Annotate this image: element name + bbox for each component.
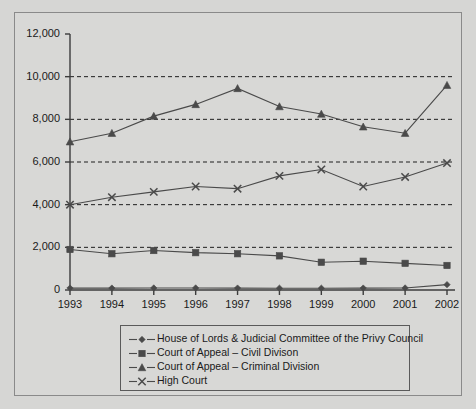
legend-item-label: Court of Appeal – Civil Divison: [157, 346, 298, 359]
x-axis-tick-label: 2000: [343, 298, 383, 310]
y-axis-tick-label: 2,000: [15, 240, 60, 252]
x-axis-tick-label: 1996: [176, 298, 216, 310]
y-axis-tick-label: 4,000: [15, 198, 60, 210]
x-axis-tick-label: 1999: [301, 298, 341, 310]
legend-marker-diamond-icon: [127, 332, 157, 345]
legend-item: Court of Appeal – Civil Divison: [127, 345, 409, 359]
legend-item-label: High Court: [157, 374, 207, 387]
x-axis-tick-label: 2001: [385, 298, 425, 310]
series-layer: [66, 81, 451, 291]
legend-item: House of Lords & Judicial Committee of t…: [127, 331, 409, 345]
legend-marker-square-icon: [127, 346, 157, 359]
legend-item: Court of Appeal – Criminal Division: [127, 359, 409, 373]
x-axis-tick-label: 1995: [134, 298, 174, 310]
legend-marker-triangle-icon: [127, 360, 157, 373]
chart-frame: 02,0004,0006,0008,00010,00012,000 199319…: [14, 12, 462, 396]
chart-series: [66, 159, 450, 208]
y-axis-tick-label: 10,000: [15, 70, 60, 82]
y-axis-tick-label: 12,000: [15, 27, 60, 39]
chart-legend: House of Lords & Judicial Committee of t…: [120, 325, 410, 391]
y-axis-tick-label: 0: [15, 283, 60, 295]
x-axis-tick-label: 2002: [427, 298, 467, 310]
legend-marker-cross-icon: [127, 374, 157, 387]
chart-series: [67, 246, 450, 268]
y-axis-tick-label: 6,000: [15, 155, 60, 167]
axes: [65, 34, 455, 295]
x-axis-tick-label: 1993: [50, 298, 90, 310]
gridlines: [70, 77, 455, 248]
y-axis-tick-label: 8,000: [15, 112, 60, 124]
legend-item-label: Court of Appeal – Criminal Division: [157, 360, 319, 373]
x-axis-tick-label: 1994: [92, 298, 132, 310]
x-axis-tick-label: 1997: [218, 298, 258, 310]
chart-series: [66, 81, 451, 145]
legend-item-label: House of Lords & Judicial Committee of t…: [157, 332, 423, 345]
x-axis-tick-label: 1998: [259, 298, 299, 310]
legend-item: High Court: [127, 373, 409, 387]
chart-figure: 02,0004,0006,0008,00010,00012,000 199319…: [0, 0, 476, 409]
